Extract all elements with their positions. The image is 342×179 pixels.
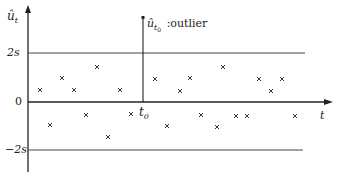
data-point-marker <box>280 77 284 81</box>
data-point-marker <box>215 125 219 129</box>
data-point-marker <box>95 65 99 69</box>
data-point-marker <box>165 124 169 128</box>
data-point-marker <box>129 112 133 116</box>
data-point-marker <box>84 113 88 117</box>
x-axis-arrow-icon <box>324 99 333 105</box>
data-point-marker <box>178 89 182 93</box>
x-axis-label: t <box>320 110 324 121</box>
data-point-marker <box>72 88 76 92</box>
data-point-marker <box>234 114 238 118</box>
data-point-marker <box>199 113 203 117</box>
data-point-marker <box>293 114 297 118</box>
data-point-marker <box>269 89 273 93</box>
data-point-marker <box>245 114 249 118</box>
outlier-label: ût0 :outlier <box>147 18 207 29</box>
tick-label-neg2s: −2s <box>5 144 27 155</box>
data-point-marker <box>38 88 42 92</box>
t0-label: t0 <box>139 106 149 118</box>
data-point-marker <box>48 123 52 127</box>
data-point-marker <box>221 65 225 69</box>
tick-label-2s: 2s <box>7 47 20 58</box>
data-point-marker <box>60 76 64 80</box>
y-axis-label: ût <box>7 10 18 22</box>
outlier-marker <box>142 16 145 19</box>
tick-label-0: 0 <box>15 96 22 107</box>
data-point-marker <box>188 76 192 80</box>
data-point-marker <box>257 77 261 81</box>
data-point-marker <box>106 135 110 139</box>
data-point-marker <box>118 88 122 92</box>
data-point-marker <box>153 77 157 81</box>
y-axis-arrow-icon <box>25 5 31 13</box>
